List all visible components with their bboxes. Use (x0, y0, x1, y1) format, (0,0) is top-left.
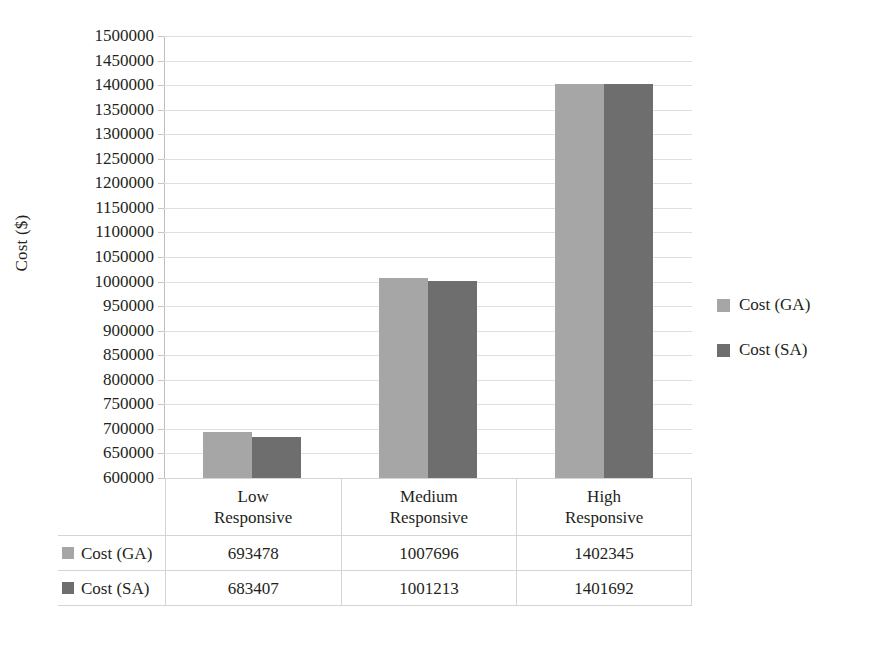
column-header-line1: Low (166, 486, 341, 507)
y-axis-tick-label: 700000 (4, 420, 154, 437)
legend-swatch-icon (717, 344, 730, 357)
bar (428, 281, 477, 478)
y-axis-tick-label: 1000000 (4, 273, 154, 290)
legend: Cost (GA)Cost (SA) (717, 293, 867, 383)
table-value-cell: 1001213 (341, 571, 517, 606)
y-axis-tick-label: 850000 (4, 346, 154, 363)
y-axis-tick-label: 1350000 (4, 101, 154, 118)
gridline (164, 36, 692, 37)
legend-item-label: Cost (SA) (739, 340, 807, 360)
series-name-label: Cost (SA) (81, 578, 149, 599)
bar (203, 432, 252, 478)
table-column-header: HighResponsive (517, 479, 692, 536)
bar-chart: Cost ($) 1500000145000014000001350000130… (0, 0, 869, 655)
table-value-cell: 693478 (165, 536, 341, 571)
legend-item[interactable]: Cost (SA) (717, 338, 867, 362)
table-column-header: MediumResponsive (341, 479, 517, 536)
y-axis-tick-label: 1450000 (4, 52, 154, 69)
table-corner-cell (58, 479, 165, 536)
table-value-cell: 683407 (165, 571, 341, 606)
y-axis-tick-label: 1050000 (4, 248, 154, 265)
y-axis-tick-label: 1200000 (4, 174, 154, 191)
bar (252, 437, 301, 478)
series-name-label: Cost (GA) (81, 543, 152, 564)
y-axis-tick-label: 1250000 (4, 150, 154, 167)
plot-area (164, 36, 692, 478)
table-series-cell: Cost (GA) (58, 536, 165, 571)
y-axis-tick-label: 1150000 (4, 199, 154, 216)
y-axis-tick-label: 650000 (4, 444, 154, 461)
table-row: Cost (GA)69347810076961402345 (58, 536, 692, 571)
y-axis-tick-label: 1100000 (4, 223, 154, 240)
y-axis-tick-label: 1300000 (4, 125, 154, 142)
table-value-cell: 1401692 (517, 571, 692, 606)
table-series-cell: Cost (SA) (58, 571, 165, 606)
data-table: LowResponsiveMediumResponsiveHighRespons… (58, 478, 692, 606)
y-axis-tick-label: 900000 (4, 322, 154, 339)
bar (555, 84, 604, 478)
table-column-header: LowResponsive (165, 479, 341, 536)
y-axis-tick-label: 750000 (4, 395, 154, 412)
table-value-cell: 1402345 (517, 536, 692, 571)
series-swatch-icon (62, 582, 74, 594)
y-axis-tick-label: 1500000 (4, 27, 154, 44)
legend-item-label: Cost (GA) (739, 295, 810, 315)
y-axis-tick-label: 950000 (4, 297, 154, 314)
legend-item[interactable]: Cost (GA) (717, 293, 867, 317)
table-row: Cost (SA)68340710012131401692 (58, 571, 692, 606)
bar (604, 84, 653, 478)
table-header-row: LowResponsiveMediumResponsiveHighRespons… (58, 479, 692, 536)
table-value-cell: 1007696 (341, 536, 517, 571)
column-header-line1: High (517, 486, 691, 507)
series-swatch-icon (62, 547, 74, 559)
column-header-line2: Responsive (342, 507, 517, 528)
gridline (164, 61, 692, 62)
column-header-line1: Medium (342, 486, 517, 507)
legend-swatch-icon (717, 299, 730, 312)
bar (379, 278, 428, 478)
y-axis-tick-label: 800000 (4, 371, 154, 388)
column-header-line2: Responsive (166, 507, 341, 528)
y-axis-tick-label: 1400000 (4, 76, 154, 93)
column-header-line2: Responsive (517, 507, 691, 528)
